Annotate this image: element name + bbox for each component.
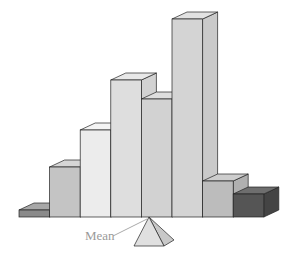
- bar-front-face: [233, 194, 264, 217]
- bar-front-face: [50, 167, 81, 217]
- bar-front-face: [203, 181, 234, 217]
- bar-front-face: [19, 210, 50, 217]
- bar-front-face: [111, 80, 142, 217]
- mean-label: Mean: [85, 228, 115, 244]
- fulcrum-triangle: [134, 217, 174, 246]
- bar-front-face: [172, 19, 203, 217]
- histogram-balance-diagram: [0, 0, 295, 258]
- histogram-bars: [19, 12, 279, 217]
- bar-8: [233, 187, 279, 217]
- bar-front-face: [141, 99, 172, 217]
- bar-front-face: [80, 130, 111, 217]
